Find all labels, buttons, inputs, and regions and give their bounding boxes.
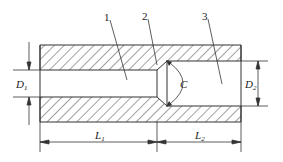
label-part-3: 3 xyxy=(202,10,208,22)
label-d1: D1 xyxy=(15,78,27,92)
label-part-2: 2 xyxy=(142,10,148,22)
label-part-1: 1 xyxy=(104,11,110,23)
dimension-d1 xyxy=(27,42,31,125)
cross-section-diagram: 1 2 3 D1 D2 C L1 L2 xyxy=(0,0,283,162)
label-l2: L2 xyxy=(194,129,205,143)
label-c: C xyxy=(180,78,188,90)
dimension-l xyxy=(40,140,241,144)
label-l1: L1 xyxy=(94,129,105,143)
dimension-d2 xyxy=(256,61,260,106)
part-labels: 1 2 3 xyxy=(104,10,208,23)
hatched-walls xyxy=(40,45,241,122)
label-d2: D2 xyxy=(244,78,257,92)
